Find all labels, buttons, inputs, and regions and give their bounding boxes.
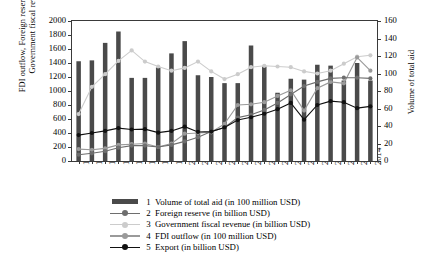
- data-point: [196, 130, 200, 134]
- data-point: [342, 76, 346, 80]
- data-point: [315, 103, 319, 107]
- y-axis-right-tick: [378, 21, 381, 22]
- data-point: [368, 76, 372, 80]
- data-point: [355, 106, 359, 110]
- y-axis-right-tick-label: 160: [384, 16, 410, 25]
- data-point: [262, 112, 266, 116]
- y-axis-right-tick-label: 140: [384, 34, 410, 43]
- y-axis-left-tick-label: 1200: [32, 72, 66, 81]
- data-point: [130, 144, 134, 148]
- y-axis-right-tick: [378, 91, 381, 92]
- legend-item-label: Volume of total aid (in 100 million USD): [155, 197, 408, 207]
- data-point: [169, 129, 173, 133]
- data-point: [302, 84, 306, 88]
- y-axis-left-tick-label: 1400: [32, 58, 66, 67]
- legend-key-icon: [108, 230, 142, 241]
- y-axis-right-tick-label: 80: [384, 86, 410, 95]
- data-point: [289, 65, 293, 69]
- y-axis-left-tick-label: 2000: [32, 16, 66, 25]
- data-point: [183, 132, 187, 136]
- legend-item-number: 1: [142, 197, 155, 207]
- data-point: [103, 149, 107, 153]
- data-point: [342, 62, 346, 66]
- y-axis-left-title-line1: FDI outflow, Foreign reserve, Export,: [18, 0, 28, 102]
- y-axis-right-tick-label: 40: [384, 121, 410, 130]
- legend-marker-dot: [122, 210, 128, 216]
- y-axis-right-tick: [378, 126, 381, 127]
- data-point: [116, 59, 120, 63]
- data-point: [249, 65, 253, 69]
- bar: [103, 43, 108, 161]
- data-point: [289, 88, 293, 92]
- y-axis-right-tick-label: 60: [384, 104, 410, 113]
- data-point: [236, 103, 240, 107]
- data-point: [328, 99, 332, 103]
- y-axis-right-tick: [378, 144, 381, 145]
- data-point: [302, 109, 306, 113]
- y-axis-right-tick: [378, 74, 381, 75]
- legend-key-icon: [108, 219, 142, 230]
- y-axis-left-tick-label: 400: [32, 128, 66, 137]
- data-point: [77, 133, 81, 137]
- data-point: [315, 71, 319, 75]
- legend-item[interactable]: 4FDI outflow (in 100 million USD): [108, 230, 408, 241]
- bar: [368, 81, 373, 162]
- data-point: [156, 64, 160, 68]
- bar: [209, 77, 214, 161]
- data-point: [355, 76, 359, 80]
- data-point: [368, 104, 372, 108]
- data-point: [275, 101, 279, 105]
- y-axis-left-tick-label: 1600: [32, 44, 66, 53]
- data-point: [315, 86, 319, 90]
- data-point: [116, 146, 120, 150]
- data-point: [77, 153, 81, 157]
- legend-marker-dot: [122, 244, 128, 250]
- legend-item-number: 2: [142, 208, 155, 218]
- data-point: [116, 126, 120, 130]
- y-axis-left-tick-label: 1000: [32, 86, 66, 95]
- data-point: [143, 144, 147, 148]
- data-point: [90, 131, 94, 135]
- data-point: [77, 112, 81, 116]
- y-axis-left-tick-label: 600: [32, 114, 66, 123]
- data-point: [143, 127, 147, 131]
- data-point: [328, 76, 332, 80]
- y-axis-right-tick: [378, 39, 381, 40]
- data-point: [209, 69, 213, 73]
- legend-item-number: 4: [142, 231, 155, 241]
- bar: [315, 65, 320, 161]
- bar: [129, 78, 134, 161]
- data-point: [275, 107, 279, 111]
- data-point: [368, 53, 372, 57]
- data-point: [355, 55, 359, 59]
- data-point: [183, 139, 187, 143]
- data-point: [209, 130, 213, 134]
- data-point: [262, 64, 266, 68]
- data-point: [130, 127, 134, 131]
- bar: [143, 78, 148, 161]
- data-point: [315, 80, 319, 84]
- legend-item[interactable]: 2Foreign reserve (in billion USD): [108, 207, 408, 218]
- y-axis-right-tick: [378, 109, 381, 110]
- data-point: [302, 69, 306, 73]
- y-axis-right-tick-label: 120: [384, 51, 410, 60]
- data-point: [249, 102, 253, 106]
- data-point: [130, 48, 134, 52]
- chart-figure: FDI outflow, Foreign reserve, Export, Go…: [0, 0, 435, 263]
- data-point: [302, 118, 306, 122]
- bar: [342, 81, 347, 162]
- data-point: [342, 81, 346, 85]
- data-point: [222, 125, 226, 129]
- legend-item-number: 5: [142, 242, 155, 252]
- data-point: [262, 108, 266, 112]
- data-point: [183, 125, 187, 129]
- legend-item[interactable]: 1Volume of total aid (in 100 million USD…: [108, 196, 408, 207]
- legend-item-label: Foreign reserve (in billion USD): [155, 208, 408, 218]
- y-axis-left-tick-label: 200: [32, 142, 66, 151]
- data-point: [249, 115, 253, 119]
- legend-item[interactable]: 3Government fiscal revenue (in billion U…: [108, 219, 408, 230]
- legend-item[interactable]: 5Export (in billion USD): [108, 242, 408, 253]
- y-axis-left-tick-label: 800: [32, 100, 66, 109]
- y-axis-left-tick-label: 1800: [32, 30, 66, 39]
- data-point: [275, 94, 279, 98]
